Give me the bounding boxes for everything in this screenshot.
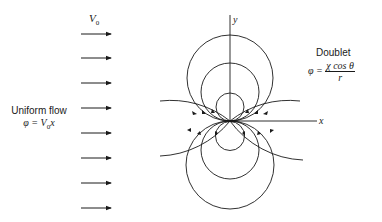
uniform-flow-equation: φ = V0x [6,117,72,133]
streamline-arrowheads [187,109,274,136]
y-axis-label: y [233,14,237,25]
doublet-fraction: χ cos θr [325,60,355,83]
velocity-label: V0 [89,13,99,29]
axes [230,15,317,121]
uniform-flow-title: Uniform flow [6,105,72,116]
x-axis-label: x [319,115,323,126]
doublet-title: Doublet [316,47,350,58]
doublet-equation: φ = χ cos θr [308,60,355,83]
doublet-streamlines [160,35,303,209]
uniform-flow-arrows [81,34,111,208]
